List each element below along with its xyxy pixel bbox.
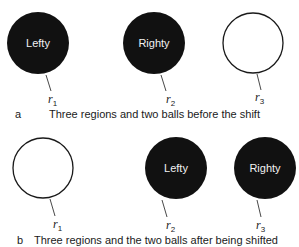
leader-line: [257, 74, 261, 90]
panel-b-region-3: Righty r3: [234, 137, 296, 234]
region-label-r2: r2: [166, 218, 176, 234]
panel-b-region-2: Lefty r2: [145, 137, 207, 234]
region-label-r2: r2: [166, 92, 176, 108]
ball-label: Righty: [138, 37, 170, 49]
panel-caption: Three regions and the two balls after be…: [34, 234, 278, 246]
panel-caption: Three regions and two balls before the s…: [49, 108, 260, 120]
leader-line: [162, 200, 167, 217]
panel-a-region-1: Lefty r1: [7, 12, 69, 108]
panel-letter: a: [15, 108, 22, 120]
panel-a-region-3: r3: [223, 13, 283, 106]
region-label-r1: r1: [53, 217, 63, 233]
region-label-r1: r1: [48, 92, 58, 108]
region-label-r3: r3: [255, 90, 265, 106]
panel-a-region-2: Righty r2: [123, 12, 185, 108]
ball-label: Lefty: [164, 162, 188, 174]
leader-line: [46, 75, 51, 91]
empty-region-ring: [223, 13, 283, 73]
leader-line: [257, 200, 261, 217]
ball-label: Lefty: [26, 37, 50, 49]
empty-region-ring: [13, 138, 73, 198]
panel-b-region-1: r1: [13, 138, 73, 233]
region-label-r3: r3: [256, 218, 266, 234]
panel-a: Lefty r1 Righty r2 r3 a Three regions an…: [7, 12, 283, 120]
shift-diagram: Lefty r1 Righty r2 r3 a Three regions an…: [0, 0, 299, 247]
panel-b: r1 Lefty r2 Righty r3 b Three regions an…: [13, 137, 296, 246]
panel-letter: b: [17, 234, 23, 246]
leader-line: [161, 75, 166, 91]
leader-line: [50, 199, 55, 216]
ball-label: Righty: [249, 162, 281, 174]
